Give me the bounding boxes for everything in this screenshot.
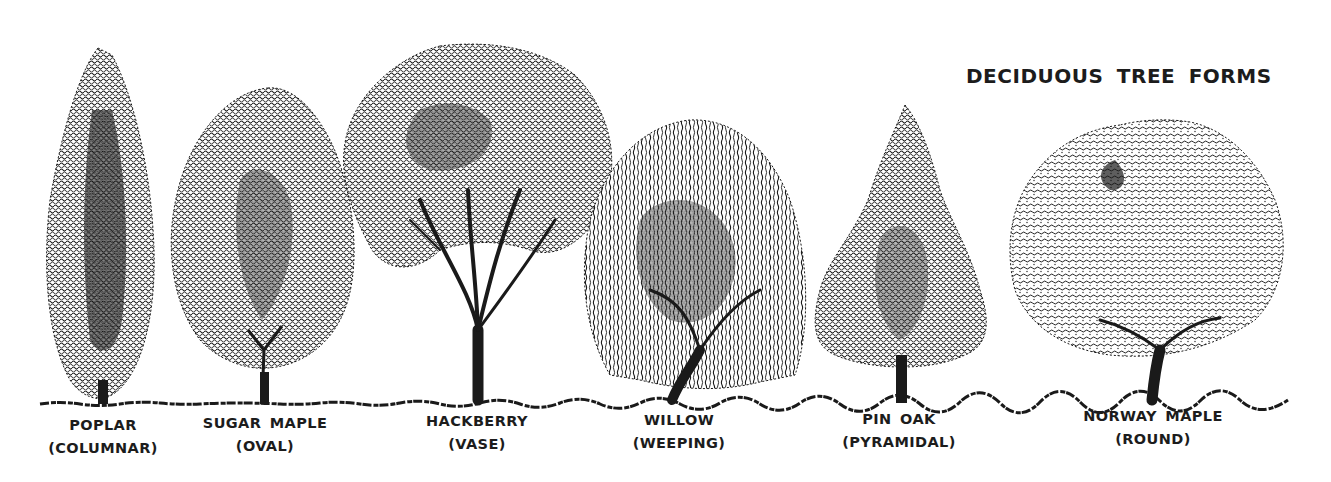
tree-hackberry-icon xyxy=(344,44,612,400)
tree-willow-icon xyxy=(584,120,805,400)
tree-name: NORWAY MAPLE xyxy=(1083,405,1223,428)
tree-pin-oak-icon xyxy=(815,105,986,403)
tree-label-poplar: POPLAR (COLUMNAR) xyxy=(48,414,158,460)
tree-name: PIN OAK xyxy=(842,408,956,431)
tree-label-sugar-maple: SUGAR MAPLE (OVAL) xyxy=(203,412,327,458)
tree-poplar-icon xyxy=(47,48,155,404)
tree-form: (PYRAMIDAL) xyxy=(842,431,956,454)
tree-label-hackberry: HACKBERRY (VASE) xyxy=(426,410,528,456)
tree-form: (WEEPING) xyxy=(633,432,726,455)
tree-name: WILLOW xyxy=(633,409,726,432)
tree-label-pin-oak: PIN OAK (PYRAMIDAL) xyxy=(842,408,956,454)
tree-form: (ROUND) xyxy=(1083,428,1223,451)
tree-name: HACKBERRY xyxy=(426,410,528,433)
tree-name: POPLAR xyxy=(48,414,158,437)
tree-label-norway-maple: NORWAY MAPLE (ROUND) xyxy=(1083,405,1223,451)
tree-norway-maple-icon xyxy=(1010,120,1283,400)
tree-sugar-maple-icon xyxy=(171,88,354,404)
tree-form: (COLUMNAR) xyxy=(48,437,158,460)
tree-form: (OVAL) xyxy=(203,435,327,458)
tree-label-willow: WILLOW (WEEPING) xyxy=(633,409,726,455)
tree-name: SUGAR MAPLE xyxy=(203,412,327,435)
tree-form: (VASE) xyxy=(426,433,528,456)
